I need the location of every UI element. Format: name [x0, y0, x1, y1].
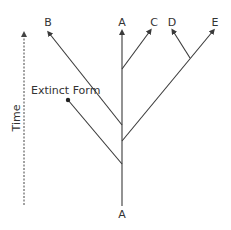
- extinct-dot-icon: [66, 98, 70, 102]
- tip-label-c: C: [150, 16, 158, 29]
- root-label: A: [118, 208, 126, 221]
- tip-label-e: E: [212, 16, 219, 29]
- tip-label-b: B: [44, 16, 52, 29]
- tip-label-d: D: [168, 16, 176, 29]
- branch-b: [49, 33, 122, 125]
- tip-label-a: A: [118, 16, 126, 29]
- time-arrow-icon: [21, 31, 27, 37]
- branch-extinct: [68, 100, 122, 164]
- tree-branches: [49, 31, 213, 206]
- branch-d: [173, 31, 190, 58]
- branch-c: [122, 31, 150, 69]
- branch-e: [122, 31, 213, 141]
- extinct-label: Extinct Form: [31, 84, 100, 97]
- phylogenetic-tree: Time B A C D E Extinct Form A: [0, 0, 231, 230]
- time-axis: Time: [10, 31, 27, 205]
- time-label: Time: [10, 104, 23, 132]
